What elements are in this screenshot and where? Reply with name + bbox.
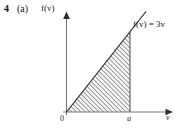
figure-container: 4 (a) f(v) f(v) = 3v 0 u v (0, 0, 186, 132)
graph-plot (0, 0, 186, 132)
y-axis (63, 12, 70, 116)
